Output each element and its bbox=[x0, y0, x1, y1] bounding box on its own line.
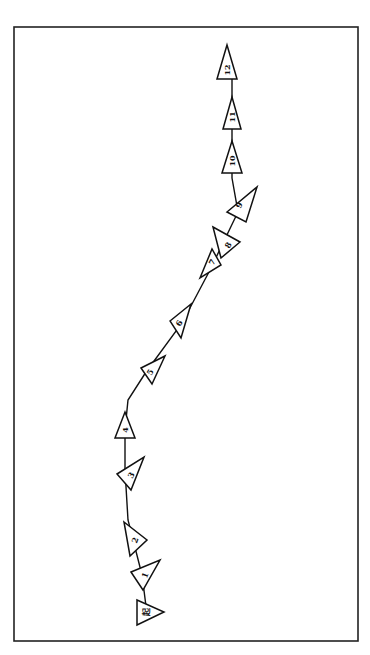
station-marker: 起 bbox=[137, 600, 164, 625]
station-marker: 10 bbox=[222, 141, 242, 173]
station-label: 10 bbox=[227, 155, 237, 167]
station-marker: 9 bbox=[227, 187, 257, 222]
station-marker: 4 bbox=[115, 412, 135, 438]
station-marker: 8 bbox=[213, 227, 240, 258]
traverse-diagram: 起123456789101112 bbox=[0, 0, 370, 655]
station-label: 12 bbox=[222, 64, 232, 75]
station-marker: 6 bbox=[170, 304, 191, 338]
station-marker: 1 bbox=[131, 560, 160, 590]
station-marker: 12 bbox=[217, 45, 237, 79]
station-label: 4 bbox=[120, 427, 130, 433]
station-marker: 5 bbox=[141, 356, 165, 384]
diagram-frame bbox=[14, 27, 358, 641]
station-label: 11 bbox=[227, 111, 237, 122]
stations-group: 起123456789101112 bbox=[115, 45, 257, 625]
traverse-path-line bbox=[125, 74, 238, 614]
station-marker: 3 bbox=[117, 457, 144, 490]
station-label: 起 bbox=[141, 607, 151, 617]
triangle-icon bbox=[115, 412, 135, 438]
station-marker: 11 bbox=[223, 97, 241, 129]
station-marker: 2 bbox=[124, 522, 147, 556]
